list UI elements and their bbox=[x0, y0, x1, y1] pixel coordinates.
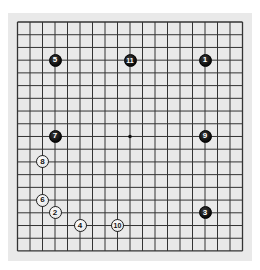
move-number: 6 bbox=[40, 196, 44, 204]
white-stone: 2 bbox=[49, 206, 62, 219]
go-board[interactable] bbox=[8, 13, 252, 261]
move-number: 10 bbox=[114, 222, 122, 229]
black-stone: 9 bbox=[199, 130, 212, 143]
move-number: 9 bbox=[203, 132, 207, 140]
black-stone: 7 bbox=[49, 130, 62, 143]
black-stone: 3 bbox=[199, 206, 212, 219]
board-grid bbox=[8, 13, 252, 261]
move-number: 4 bbox=[78, 222, 82, 230]
black-stone: 5 bbox=[49, 54, 62, 67]
move-number: 11 bbox=[126, 57, 133, 64]
black-stone: 1 bbox=[199, 54, 212, 67]
move-number: 7 bbox=[53, 132, 57, 140]
move-number: 1 bbox=[203, 56, 207, 64]
move-number: 5 bbox=[53, 56, 57, 64]
white-stone: 6 bbox=[36, 194, 49, 207]
white-stone: 10 bbox=[111, 219, 124, 232]
move-number: 8 bbox=[40, 158, 44, 166]
move-number: 3 bbox=[203, 209, 207, 217]
white-stone: 4 bbox=[74, 219, 87, 232]
star-point bbox=[128, 135, 132, 139]
black-stone: 11 bbox=[124, 54, 137, 67]
move-number: 2 bbox=[53, 209, 57, 217]
